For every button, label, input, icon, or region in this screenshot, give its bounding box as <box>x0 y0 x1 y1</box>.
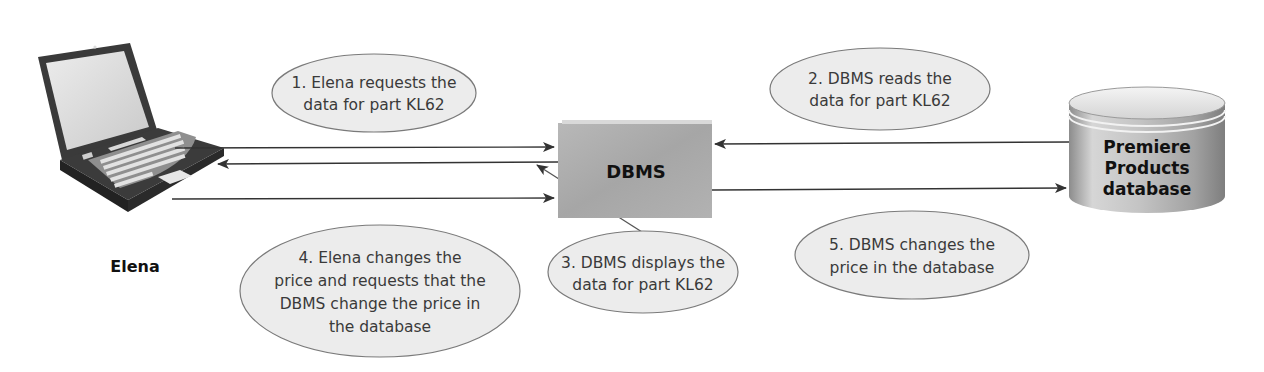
step-1-bubble: 1. Elena requests the data for part KL62 <box>272 54 476 132</box>
database-label-line-1: Premiere <box>1103 137 1190 157</box>
arrow-request-data <box>175 147 554 148</box>
step-1-line-2: data for part KL62 <box>303 96 444 114</box>
dbms-box: DBMS <box>558 120 712 218</box>
step-3-line-2: data for part KL62 <box>572 276 713 294</box>
step-5-line-1: 5. DBMS changes the <box>829 236 995 254</box>
arrow-display-data <box>218 162 558 164</box>
arrow-read-data <box>715 142 1070 144</box>
database-label-line-3: database <box>1103 179 1192 199</box>
arrow-change-price <box>712 188 1066 190</box>
step-4-line-2: price and requests that the <box>274 272 485 290</box>
step-2-line-1: 2. DBMS reads the <box>808 70 952 88</box>
actor-name-label: Elena <box>110 257 159 276</box>
dbms-flow-diagram: Elena DBMS Premiere Products database 1.… <box>0 0 1264 372</box>
database-label-line-2: Products <box>1104 158 1189 178</box>
dbms-label: DBMS <box>606 161 666 182</box>
arrow-change-request <box>172 198 554 199</box>
step-2-line-2: data for part KL62 <box>809 92 950 110</box>
step-5-bubble: 5. DBMS changes the price in the databas… <box>795 211 1029 299</box>
step-3-line-1: 3. DBMS displays the <box>561 254 725 272</box>
step-4-bubble: 4. Elena changes the price and requests … <box>240 225 520 357</box>
step-4-line-3: DBMS change the price in <box>280 295 481 313</box>
step-4-line-4: the database <box>329 318 431 336</box>
step-1-line-1: 1. Elena requests the <box>292 74 457 92</box>
database-cylinder-icon: Premiere Products database <box>1069 87 1225 213</box>
step-2-bubble: 2. DBMS reads the data for part KL62 <box>770 48 990 130</box>
step-4-line-1: 4. Elena changes the <box>298 249 461 267</box>
step-5-line-2: price in the database <box>830 259 995 277</box>
step-3-bubble: 3. DBMS displays the data for part KL62 <box>548 231 738 313</box>
laptop-icon <box>38 43 224 212</box>
